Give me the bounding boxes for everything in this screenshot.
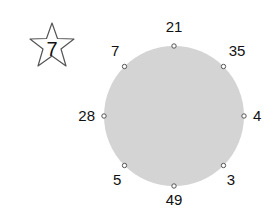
node-label: 49 (166, 191, 183, 208)
node-label: 4 (253, 107, 261, 124)
node-label: 5 (113, 171, 121, 188)
node-dot (221, 64, 225, 68)
diagram-canvas: 7 213543495287 (0, 0, 280, 221)
node-label: 3 (227, 171, 235, 188)
badge-value: 7 (46, 38, 57, 60)
node-label: 7 (111, 42, 119, 59)
node-dot (172, 44, 176, 48)
node-dot (172, 184, 176, 188)
node-dot (102, 114, 106, 118)
node-label: 21 (166, 18, 183, 35)
star-badge: 7 (30, 23, 74, 66)
node-dot (122, 163, 126, 167)
node-label: 35 (229, 42, 246, 59)
node-dot (122, 64, 126, 68)
node-dot (242, 114, 246, 118)
node-dot (221, 163, 225, 167)
node-label: 28 (78, 107, 95, 124)
